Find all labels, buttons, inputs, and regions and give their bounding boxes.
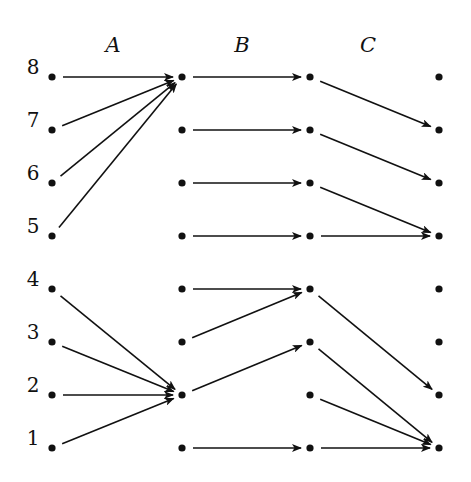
node-col0-row7 xyxy=(48,126,55,133)
row-label-6: 6 xyxy=(27,161,40,185)
edge-c-6-to-5 xyxy=(320,187,431,232)
edge-a-1-to-2 xyxy=(62,398,173,443)
node-col0-row4 xyxy=(48,285,55,292)
edge-b-2-to-3 xyxy=(192,345,302,390)
node-col0-row3 xyxy=(48,338,55,345)
row-label-3: 3 xyxy=(27,320,40,344)
edge-c-7-to-6 xyxy=(320,134,431,179)
edge-a-5-to-8 xyxy=(59,84,176,228)
node-col2-row3 xyxy=(306,338,313,345)
node-col1-row6 xyxy=(178,179,185,186)
row-label-8: 8 xyxy=(27,55,40,79)
node-col1-row7 xyxy=(178,126,185,133)
node-col1-row2 xyxy=(178,391,185,398)
row-label-7: 7 xyxy=(27,108,40,132)
row-label-4: 4 xyxy=(27,267,40,291)
edges-layer xyxy=(0,0,471,482)
node-col3-row8 xyxy=(435,73,442,80)
node-col1-row3 xyxy=(178,338,185,345)
node-col1-row1 xyxy=(178,444,185,451)
edge-c-3-to-1 xyxy=(318,349,432,442)
node-col0-row5 xyxy=(48,232,55,239)
row-label-2: 2 xyxy=(27,373,40,397)
node-col3-row6 xyxy=(435,179,442,186)
edge-a-3-to-2 xyxy=(62,346,173,391)
edge-a-6-to-8 xyxy=(61,83,175,176)
stage-label-a: A xyxy=(105,33,120,57)
stage-label-b: B xyxy=(234,33,249,57)
edge-a-4-to-2 xyxy=(61,296,175,389)
node-col2-row1 xyxy=(306,444,313,451)
node-col3-row5 xyxy=(435,232,442,239)
routing-diagram: A B C 8 7 6 5 4 3 2 1 xyxy=(0,0,471,482)
edge-c-2-to-1 xyxy=(320,399,431,444)
node-col2-row7 xyxy=(306,126,313,133)
edge-b-3-to-4 xyxy=(192,292,302,337)
edge-a-7-to-8 xyxy=(62,80,173,125)
row-label-1: 1 xyxy=(27,426,40,450)
node-col3-row3 xyxy=(435,338,442,345)
node-col2-row2 xyxy=(306,391,313,398)
node-col2-row6 xyxy=(306,179,313,186)
node-col1-row4 xyxy=(178,285,185,292)
edge-c-4-to-2 xyxy=(318,296,432,389)
node-col3-row2 xyxy=(435,391,442,398)
node-col2-row4 xyxy=(306,285,313,292)
node-col3-row7 xyxy=(435,126,442,133)
node-col0-row1 xyxy=(48,444,55,451)
row-label-5: 5 xyxy=(27,214,40,238)
node-col2-row8 xyxy=(306,73,313,80)
node-col2-row5 xyxy=(306,232,313,239)
node-col1-row5 xyxy=(178,232,185,239)
node-col1-row8 xyxy=(178,73,185,80)
edge-c-8-to-7 xyxy=(320,81,431,126)
node-col3-row1 xyxy=(435,444,442,451)
node-col0-row6 xyxy=(48,179,55,186)
node-col3-row4 xyxy=(435,285,442,292)
node-col0-row2 xyxy=(48,391,55,398)
stage-label-c: C xyxy=(360,33,376,57)
node-col0-row8 xyxy=(48,73,55,80)
